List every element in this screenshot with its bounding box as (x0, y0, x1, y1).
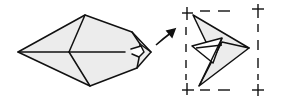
corner-mark-bl (182, 83, 194, 95)
arrow-icon (156, 29, 175, 45)
left-figure-outline (18, 15, 151, 86)
corner-mark-tr (252, 4, 264, 18)
left-figure (18, 15, 151, 86)
right-figure (192, 15, 249, 86)
origami-diagram (0, 0, 282, 103)
corner-mark-tl (182, 7, 193, 20)
corner-mark-br (252, 84, 264, 96)
